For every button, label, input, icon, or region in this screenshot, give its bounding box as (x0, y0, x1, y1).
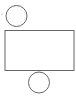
lateral-surface-rectangle (5, 31, 74, 71)
bottom-circle-base (29, 72, 50, 93)
top-circle-base (6, 6, 27, 27)
cylinder-net-diagram (0, 0, 76, 96)
small-mark (1, 13, 2, 14)
diagram-svg (0, 0, 76, 96)
